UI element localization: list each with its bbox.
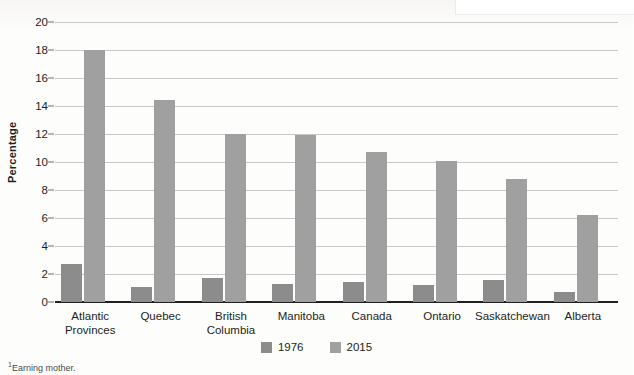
y-axis-tick-mark [48, 50, 54, 51]
bar-group: Quebec [125, 22, 195, 302]
bar-group: Canada [337, 22, 407, 302]
bar-1976[interactable] [61, 264, 82, 302]
plot-area: 02468101214161820AtlanticProvincesQuebec… [55, 22, 618, 302]
bar-2015[interactable] [84, 50, 105, 302]
x-axis-category-label: AtlanticProvinces [65, 309, 116, 337]
y-axis-tick-label: 0 [42, 296, 48, 308]
y-axis-tick-mark [48, 22, 54, 23]
y-axis-tick-label: 20 [35, 16, 48, 28]
bar-2015[interactable] [506, 179, 527, 302]
x-axis-category-label: Manitoba [278, 309, 325, 323]
y-axis-tick-mark [48, 302, 54, 303]
footnote-text: Earning mother. [12, 363, 76, 373]
legend-label-1976: 1976 [278, 341, 304, 353]
y-axis-tick-mark [48, 134, 54, 135]
bar-1976[interactable] [554, 292, 575, 302]
legend-item-2015[interactable]: 2015 [330, 341, 373, 353]
x-axis-category-label: BritishColumbia [207, 309, 256, 337]
y-axis-tick-mark [48, 162, 54, 163]
y-axis-tick-label: 4 [42, 240, 48, 252]
x-axis-category-label: Ontario [423, 309, 461, 323]
bar-2015[interactable] [295, 135, 316, 302]
bar-1976[interactable] [343, 282, 364, 302]
y-axis-tick-mark [48, 190, 54, 191]
y-axis-tick-label: 14 [35, 100, 48, 112]
bar-1976[interactable] [131, 287, 152, 302]
bar-2015[interactable] [225, 134, 246, 302]
bar-group: Alberta [548, 22, 618, 302]
y-axis-tick-mark [48, 218, 54, 219]
y-axis-title: Percentage [6, 122, 18, 183]
bar-1976[interactable] [272, 284, 293, 302]
y-axis-tick-mark [48, 246, 54, 247]
bar-group: Saskatchewan [477, 22, 547, 302]
footnote: 1Earning mother. [8, 361, 75, 373]
y-axis-tick-label: 6 [42, 212, 48, 224]
y-axis-tick-label: 16 [35, 72, 48, 84]
bar-group: BritishColumbia [196, 22, 266, 302]
x-axis-category-label: Quebec [140, 309, 180, 323]
y-axis-tick-label: 18 [35, 44, 48, 56]
y-axis-tick-label: 8 [42, 184, 48, 196]
y-axis-tick-label: 12 [35, 128, 48, 140]
bar-1976[interactable] [483, 280, 504, 302]
bar-2015[interactable] [154, 100, 175, 302]
y-axis-tick-mark [48, 78, 54, 79]
x-axis-category-label: Saskatchewan [475, 309, 550, 323]
legend-item-1976[interactable]: 1976 [261, 341, 304, 353]
x-axis-category-label: Alberta [565, 309, 601, 323]
bar-1976[interactable] [202, 278, 223, 302]
y-axis-tick-mark [48, 274, 54, 275]
bar-1976[interactable] [413, 285, 434, 302]
y-axis-tick-mark [48, 106, 54, 107]
legend-swatch-1976 [261, 342, 272, 353]
y-axis-tick-label: 10 [35, 156, 48, 168]
legend-label-2015: 2015 [347, 341, 373, 353]
bar-group: Manitoba [266, 22, 336, 302]
x-axis-category-label: Canada [352, 309, 392, 323]
bar-2015[interactable] [436, 161, 457, 302]
chart-legend: 1976 2015 [0, 341, 633, 353]
bar-group: AtlanticProvinces [55, 22, 125, 302]
bar-2015[interactable] [366, 152, 387, 302]
y-axis-tick-label: 2 [42, 268, 48, 280]
bar-group: Ontario [407, 22, 477, 302]
bar-2015[interactable] [577, 215, 598, 302]
legend-swatch-2015 [330, 342, 341, 353]
